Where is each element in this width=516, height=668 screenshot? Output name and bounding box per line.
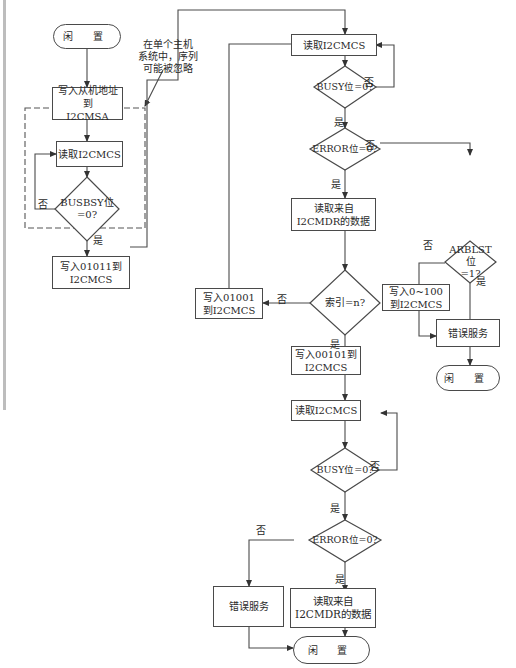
- process-read-i2cmcs-1: 读取I2CMCS: [56, 141, 123, 167]
- label-no-busy-1: 否: [364, 74, 374, 89]
- decision-index-text: 索引=n?: [310, 297, 380, 309]
- label-yes-busbsy: 是: [93, 232, 103, 247]
- decision-busy-2-text: BUSY位=0?: [311, 464, 379, 476]
- label-yes-busy-1: 是: [334, 114, 344, 129]
- label-no-busbsy: 否: [38, 196, 48, 211]
- process-read-i2cmcs-3: 读取I2CMCS: [291, 400, 361, 421]
- annotation-note: 在单个主机 系统中，序列 可能被忽略: [132, 39, 204, 75]
- flowchart-canvas: 在单个主机 系统中，序列 可能被忽略 闲 置 写入从机地址到 I2CMSA 读取…: [0, 0, 516, 668]
- terminal-idle-end-1: 闲 置: [436, 365, 500, 391]
- process-write-0-100: 写入0~100 到I2CMCS: [382, 284, 450, 311]
- terminal-idle-end-2: 闲 置: [293, 636, 370, 664]
- decision-arblst-text: ARBLST位 =1?: [445, 250, 496, 274]
- label-no-busy-2: 否: [370, 458, 380, 473]
- process-read-i2cmdr-1: 读取来自 I2CMDR的数据: [291, 198, 376, 231]
- label-yes-error-2: 是: [335, 571, 345, 586]
- process-error-service-1: 错误服务: [436, 319, 500, 347]
- label-yes-index: 是: [330, 336, 340, 351]
- label-no-arblst: 否: [423, 237, 433, 252]
- process-write-slave-address: 写入从机地址到 I2CMSA: [52, 87, 123, 120]
- terminal-idle-start: 闲 置: [53, 24, 121, 49]
- decision-error-2-text: ERROR位=0?: [309, 534, 381, 546]
- process-write-00101: 写入00101到 I2CMCS: [291, 346, 361, 375]
- label-yes-busy-2: 是: [330, 500, 340, 515]
- process-write-01001: 写入01001 到I2CMCS: [195, 288, 263, 319]
- process-read-i2cmdr-2: 读取来自 I2CMDR的数据: [290, 588, 376, 628]
- label-yes-error-1: 是: [331, 176, 341, 191]
- process-error-service-2: 错误服务: [213, 586, 284, 627]
- process-read-i2cmcs-2: 读取I2CMCS: [291, 34, 377, 56]
- label-no-error-1: 否: [365, 137, 375, 152]
- process-write-01011: 写入01011到 I2CMCS: [52, 256, 130, 289]
- decision-busbsy-text: BUSBSY位 =0?: [55, 197, 119, 221]
- label-no-index: 否: [277, 291, 287, 306]
- label-yes-arblst: 是: [476, 273, 486, 288]
- label-no-error-2: 否: [256, 522, 266, 537]
